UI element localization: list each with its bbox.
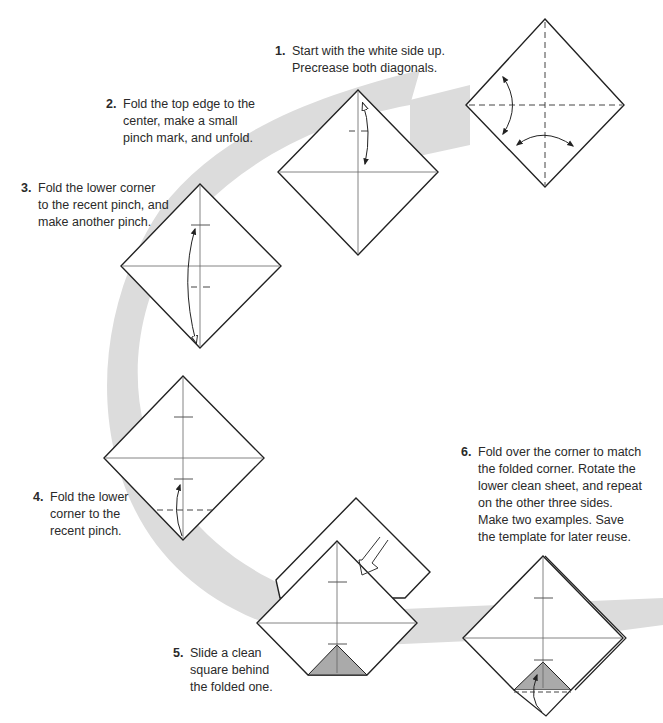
step-2-caption: 2. Fold the top edge to the center, make… bbox=[123, 96, 255, 147]
step-number: 1. bbox=[275, 43, 285, 60]
step-number: 2. bbox=[106, 96, 116, 113]
step-1-caption: 1. Start with the white side up. Precrea… bbox=[292, 43, 445, 77]
step-number: 6. bbox=[461, 444, 471, 461]
step-number: 3. bbox=[21, 180, 31, 197]
step-6-diagram bbox=[463, 556, 626, 716]
step-1-diagram bbox=[466, 19, 624, 187]
step-4-caption: 4. Fold the lower corner to the recent p… bbox=[50, 489, 129, 540]
step-5-diagram bbox=[257, 498, 430, 675]
diagram-canvas bbox=[0, 0, 663, 723]
step-6-caption: 6. Fold over the corner to match the fol… bbox=[478, 444, 642, 546]
step-5-caption: 5. Slide a clean square behind the folde… bbox=[190, 645, 273, 696]
step-number: 5. bbox=[173, 645, 183, 662]
step-3-caption: 3. Fold the lower corner to the recent p… bbox=[38, 180, 169, 231]
step-number: 4. bbox=[33, 489, 43, 506]
origami-instruction-diagram: 1. Start with the white side up. Precrea… bbox=[0, 0, 663, 723]
